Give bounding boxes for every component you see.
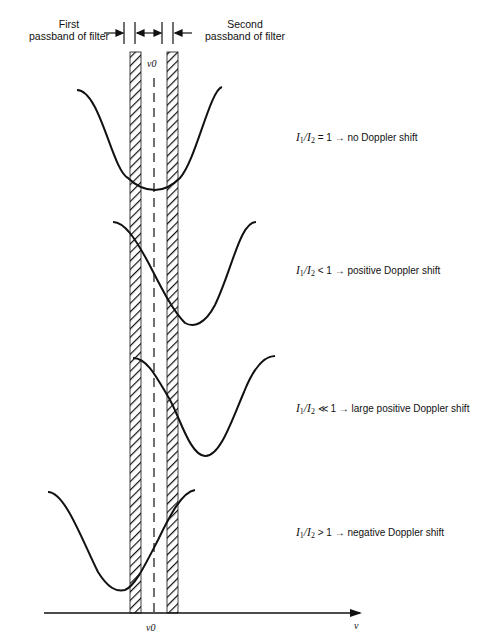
- comparison-value: 1: [326, 132, 332, 143]
- axis-center-tick-label: ν0: [146, 622, 155, 634]
- case-label-large-positive-shift: I1/I2 ≪ 1 → large positive Doppler shift: [296, 402, 469, 418]
- first-passband-label-line1: First: [14, 18, 124, 30]
- second-passband-band: [167, 52, 178, 613]
- axis-arrowhead-icon: [350, 609, 362, 617]
- case-result: large positive Doppler shift: [352, 403, 470, 414]
- first-passband-band: [130, 52, 141, 613]
- first-passband-label: First passband of filter: [14, 18, 124, 42]
- case-result: negative Doppler shift: [347, 527, 444, 538]
- arrow-icon: →: [339, 403, 349, 414]
- axis-x-label: ν: [354, 620, 358, 632]
- comparison-symbol: ≪: [318, 403, 328, 414]
- comparison-value: 1: [326, 527, 332, 538]
- case-label-no-shift: I1/I2 = 1 → no Doppler shift: [296, 131, 417, 147]
- comparison-symbol: <: [318, 265, 324, 276]
- comparison-value: 1: [330, 403, 336, 414]
- ratio-expression: I1/I2: [296, 526, 315, 538]
- case-label-positive-shift: I1/I2 < 1 → positive Doppler shift: [296, 264, 440, 280]
- doppler-filter-diagram: [0, 0, 492, 642]
- ratio-expression: I1/I2: [296, 402, 315, 414]
- ratio-expression: I1/I2: [296, 264, 315, 276]
- center-frequency-label: ν0: [147, 58, 156, 70]
- arrow-icon: →: [335, 527, 345, 538]
- comparison-value: 1: [326, 265, 332, 276]
- arrow-icon: →: [335, 132, 345, 143]
- comparison-symbol: >: [318, 527, 324, 538]
- curve-no-shift: [77, 87, 222, 190]
- second-passband-label-line1: Second: [190, 18, 300, 30]
- case-result: positive Doppler shift: [347, 265, 440, 276]
- second-passband-label: Second passband of filter: [190, 18, 300, 42]
- case-label-negative-shift: I1/I2 > 1 → negative Doppler shift: [296, 526, 444, 542]
- comparison-symbol: =: [318, 132, 324, 143]
- ratio-expression: I1/I2: [296, 131, 315, 143]
- second-passband-label-line2: passband of filter: [190, 30, 300, 42]
- first-passband-label-line2: passband of filter: [14, 30, 124, 42]
- arrow-icon: →: [335, 265, 345, 276]
- case-result: no Doppler shift: [347, 132, 417, 143]
